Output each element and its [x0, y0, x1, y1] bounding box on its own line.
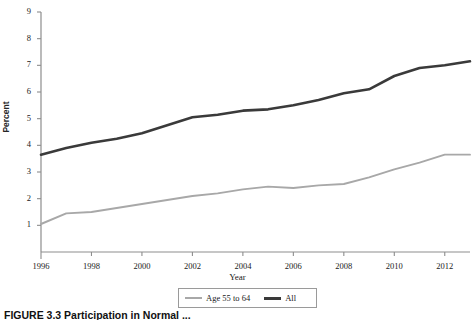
legend-label: All — [285, 293, 296, 303]
x-tick-label: 2002 — [172, 261, 212, 271]
dark-line-swatch-icon — [264, 297, 281, 300]
y-tick-label: 2 — [9, 193, 31, 203]
y-tick-label: 3 — [9, 166, 31, 176]
series-line-age-55-to-64 — [41, 155, 470, 224]
x-tick-label: 2004 — [223, 261, 263, 271]
light-line-swatch-icon — [185, 297, 202, 299]
y-tick-label: 4 — [9, 139, 31, 149]
x-tick-label: 1998 — [71, 261, 111, 271]
plot-area: 123456789 199619982000200220042006200820… — [0, 0, 475, 262]
x-tick-label: 2008 — [324, 261, 364, 271]
figure-caption: FIGURE 3.3 Participation in Normal ... — [4, 309, 474, 320]
legend-item-all: All — [264, 293, 296, 303]
y-tick-label: 5 — [9, 113, 31, 123]
legend-label: Age 55 to 64 — [206, 293, 250, 303]
x-tick-label: 1996 — [21, 261, 61, 271]
x-axis-ticks — [41, 252, 445, 259]
y-tick-label: 8 — [9, 33, 31, 43]
x-axis-title: Year — [0, 272, 475, 282]
legend-item-age-55-to-64: Age 55 to 64 — [185, 293, 250, 303]
chart-legend: Age 55 to 64 All — [178, 288, 317, 308]
x-tick-label: 2000 — [122, 261, 162, 271]
x-tick-label: 2006 — [273, 261, 313, 271]
axis-lines — [41, 12, 470, 252]
figure-container: 123456789 199619982000200220042006200820… — [0, 0, 475, 320]
data-series-layer — [41, 61, 470, 224]
y-tick-label: 7 — [9, 59, 31, 69]
line-chart-svg — [0, 0, 475, 262]
x-tick-label: 2012 — [425, 261, 465, 271]
y-tick-label: 1 — [9, 219, 31, 229]
y-tick-label: 9 — [9, 6, 31, 16]
y-tick-label: 6 — [9, 86, 31, 96]
y-axis-title: Percent — [1, 87, 11, 147]
x-tick-label: 2010 — [374, 261, 414, 271]
series-line-all — [41, 61, 470, 154]
